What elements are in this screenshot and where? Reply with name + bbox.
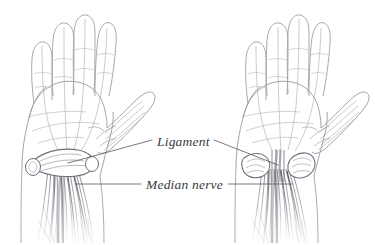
right-hand-figure xyxy=(235,15,369,243)
label-ligament: Ligament xyxy=(157,134,210,150)
label-median-nerve: Median nerve xyxy=(146,177,223,193)
left-hand-figure xyxy=(21,15,155,243)
anatomy-line-drawing xyxy=(0,0,375,245)
illustration-canvas: Ligament Median nerve xyxy=(0,0,375,245)
